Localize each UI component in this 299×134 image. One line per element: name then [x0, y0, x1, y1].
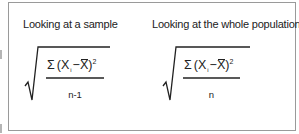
subscript-i: i [70, 67, 71, 73]
population-std-dev-panel: Looking at the whole population Σ(Xi−X)2… [150, 0, 299, 134]
sum-symbol: Σ [184, 58, 192, 72]
sample-std-dev-panel: Looking at a sample Σ(Xi−X)2 n-1 [0, 0, 150, 134]
x-variable: X [198, 58, 206, 72]
minus-sign: − [210, 58, 217, 72]
exponent-2: 2 [229, 58, 233, 65]
population-denominator: n [183, 89, 240, 100]
population-numerator: Σ(Xi−X)2 [184, 58, 233, 72]
mean-x-bar: X [217, 58, 225, 72]
exponent-2: 2 [92, 58, 96, 65]
minus-sign: − [73, 58, 80, 72]
x-variable: X [61, 58, 69, 72]
mean-x-bar: X [80, 58, 88, 72]
sample-denominator: n-1 [46, 89, 104, 100]
sample-numerator: Σ(Xi−X)2 [47, 58, 96, 72]
subscript-i: i [207, 67, 208, 73]
sum-symbol: Σ [47, 58, 55, 72]
